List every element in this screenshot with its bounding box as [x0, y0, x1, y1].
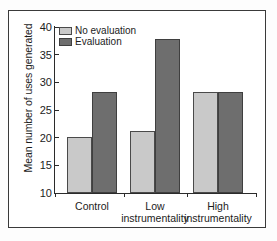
y-tick-mark — [55, 54, 59, 55]
y-axis-title: Mean number of uses generated — [22, 18, 34, 178]
chart-legend: No evaluationEvaluation — [59, 25, 136, 47]
x-category-label-0: Control — [75, 200, 109, 212]
bar-0-1 — [92, 92, 117, 193]
legend-item-1: Evaluation — [59, 36, 136, 47]
bar-1-0 — [130, 131, 155, 193]
plot-area: 10152025303540 — [55, 27, 256, 193]
x-category-label-2: Highinstrumentality — [184, 200, 252, 224]
y-tick-label: 30 — [40, 76, 52, 88]
x-category-label-1: Lowinstrumentality — [121, 200, 189, 224]
x-tick-mark-1 — [124, 193, 125, 197]
y-tick-mark — [55, 165, 59, 166]
x-category-line2: instrumentality — [121, 212, 189, 224]
legend-item-0: No evaluation — [59, 25, 136, 36]
y-tick-mark — [55, 110, 59, 111]
x-tick-mark-3 — [256, 193, 257, 197]
x-tick-mark-0 — [55, 193, 56, 197]
x-axis-line — [54, 193, 257, 194]
x-category-line2: instrumentality — [184, 212, 252, 224]
y-tick-15: 15 — [40, 159, 55, 171]
y-tick-label: 15 — [40, 159, 52, 171]
bar-2-1 — [218, 92, 243, 193]
y-tick-label: 35 — [40, 49, 52, 61]
y-tick-20: 20 — [40, 132, 55, 144]
legend-swatch-dark — [59, 38, 72, 46]
y-tick-label: 40 — [40, 21, 52, 33]
legend-swatch-light — [59, 27, 72, 35]
y-tick-label: 25 — [40, 104, 52, 116]
y-tick-label: 20 — [40, 132, 52, 144]
y-tick-40: 40 — [40, 21, 55, 33]
x-category-line1: Control — [75, 200, 109, 212]
x-tick-mark-2 — [187, 193, 188, 197]
legend-label: Evaluation — [75, 36, 122, 47]
x-category-line1: Low — [121, 200, 189, 212]
bar-1-1 — [155, 39, 180, 193]
y-tick-label: 10 — [40, 187, 52, 199]
bar-2-0 — [193, 92, 218, 193]
y-tick-30: 30 — [40, 76, 55, 88]
y-tick-mark — [55, 137, 59, 138]
x-category-line1: High — [184, 200, 252, 212]
y-tick-mark — [55, 82, 59, 83]
y-tick-25: 25 — [40, 104, 55, 116]
figure-canvas: Mean number of uses generated 1015202530… — [0, 0, 277, 241]
y-tick-35: 35 — [40, 49, 55, 61]
legend-label: No evaluation — [75, 25, 136, 36]
y-tick-10: 10 — [40, 187, 55, 199]
bar-0-0 — [67, 137, 92, 193]
